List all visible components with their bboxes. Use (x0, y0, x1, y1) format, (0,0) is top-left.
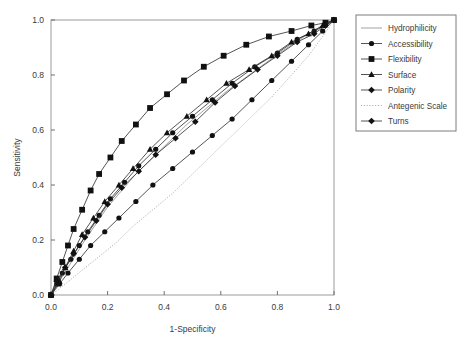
marker-square (201, 64, 207, 70)
marker-circle (88, 243, 93, 248)
x-tick-label: 0.0 (45, 302, 57, 312)
marker-square (289, 28, 295, 34)
legend-label: Hydrophilicity (388, 24, 438, 33)
marker-square (147, 105, 153, 111)
x-tick-label: 0.8 (271, 302, 283, 312)
legend-label: Polarity (388, 86, 416, 95)
marker-square (79, 207, 85, 213)
marker-square (88, 188, 94, 194)
marker-circle (102, 229, 107, 234)
x-tick-label: 0.4 (158, 302, 170, 312)
legend-label: Antegenic Scale (388, 102, 448, 111)
marker-circle (170, 166, 175, 171)
marker-circle (289, 59, 294, 64)
marker-square (133, 122, 139, 128)
marker-circle (190, 114, 195, 119)
marker-circle (369, 41, 374, 46)
legend-label: Turns (388, 117, 409, 126)
legend-label: Surface (388, 71, 417, 80)
marker-circle (170, 130, 175, 135)
y-axis-title: Sensitivity (12, 138, 22, 177)
marker-circle (65, 270, 70, 275)
marker-circle (331, 17, 336, 22)
marker-square (308, 23, 314, 29)
marker-square (221, 53, 227, 59)
marker-square (71, 226, 77, 232)
legend-label: Flexibility (388, 55, 423, 64)
marker-circle (133, 199, 138, 204)
y-tick-label: 0.0 (32, 290, 44, 300)
marker-square (108, 155, 114, 161)
y-tick-label: 0.6 (32, 125, 44, 135)
marker-circle (269, 78, 274, 83)
marker-circle (230, 116, 235, 121)
x-axis-title: 1-Specificity (170, 324, 217, 334)
marker-circle (116, 215, 121, 220)
marker-circle (190, 149, 195, 154)
marker-square (181, 78, 187, 84)
y-tick-label: 0.2 (32, 235, 44, 245)
marker-circle (57, 281, 62, 286)
marker-circle (77, 257, 82, 262)
marker-circle (210, 133, 215, 138)
marker-circle (153, 147, 158, 152)
marker-circle (249, 97, 254, 102)
chart-background (0, 0, 461, 341)
marker-square (59, 259, 65, 265)
marker-circle (150, 182, 155, 187)
x-tick-label: 0.6 (215, 302, 227, 312)
y-tick-label: 1.0 (32, 15, 44, 25)
marker-square (65, 243, 71, 249)
marker-square (266, 34, 272, 40)
marker-circle (48, 292, 53, 297)
legend-label: Accessibility (388, 40, 433, 49)
roc-chart-svg: 0.00.20.40.60.81.00.00.20.40.60.81.0 1-S… (0, 0, 461, 341)
marker-square (243, 42, 249, 48)
y-tick-label: 0.4 (32, 180, 44, 190)
marker-square (96, 171, 102, 177)
marker-circle (320, 28, 325, 33)
roc-chart-figure: 0.00.20.40.60.81.00.00.20.40.60.81.0 1-S… (0, 0, 461, 341)
x-tick-label: 0.2 (102, 302, 114, 312)
marker-square (119, 138, 125, 144)
marker-square (369, 56, 375, 62)
marker-circle (306, 42, 311, 47)
x-tick-label: 1.0 (328, 302, 340, 312)
marker-square (164, 91, 170, 97)
y-tick-label: 0.8 (32, 70, 44, 80)
